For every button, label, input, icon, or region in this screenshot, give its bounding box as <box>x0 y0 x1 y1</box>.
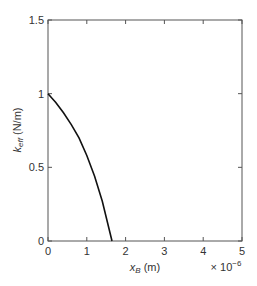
plot-area <box>48 20 242 241</box>
x-tick-label: 2 <box>123 245 129 257</box>
y-tick-label: 0 <box>38 235 44 247</box>
y-axis-label: keff (N/m) <box>11 108 25 153</box>
x-tick-label: 5 <box>239 245 245 257</box>
x-axis-multiplier: × 10−6 <box>211 259 242 273</box>
x-tick-label: 1 <box>84 245 90 257</box>
y-tick-label: 1 <box>38 88 44 100</box>
x-axis-label: xB (m) <box>129 261 160 275</box>
x-tick-label: 0 <box>45 245 51 257</box>
x-tick-label: 4 <box>200 245 206 257</box>
y-tick-label: 0.5 <box>29 161 44 173</box>
y-tick-label: 1.5 <box>29 14 44 26</box>
x-tick-label: 3 <box>161 245 167 257</box>
chart: 01234500.511.5 xB (m) × 10−6 keff (N/m) <box>0 0 257 286</box>
